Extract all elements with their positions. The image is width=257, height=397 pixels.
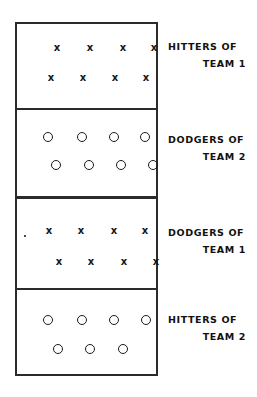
player-mark-o [43,132,53,142]
player-mark-x: x [76,225,87,236]
player-mark-x: x [78,72,89,83]
player-mark-x: x [46,72,57,83]
player-mark-o [118,344,128,354]
player-mark-o [140,132,150,142]
player-mark-o [148,160,158,170]
caption-line-2: TEAM 2 [168,148,252,165]
player-mark-o [109,132,119,142]
player-mark-x: x [85,42,96,53]
player-mark-o [77,315,87,325]
player-mark-x: x [140,225,151,236]
panel-dodgers-team-2 [15,110,158,196]
caption-hitters-team-2: HITTERS OF TEAM 2 [168,311,252,345]
player-mark-x: x [109,225,120,236]
player-mark-x: x [118,42,129,53]
player-mark-o [116,160,126,170]
caption-line-2: TEAM 1 [168,241,252,258]
panel-hitters-team-2 [15,290,158,376]
player-mark-o [53,344,63,354]
player-mark-x: x [149,42,160,53]
player-mark-x: x [110,72,121,83]
team-formation-diagram: x x x x x x x x x x x x x x x x [0,0,257,397]
player-mark-x: x [141,72,152,83]
caption-line-1: HITTERS OF [168,311,252,328]
player-mark-o [51,160,61,170]
caption-line-2: TEAM 2 [168,328,252,345]
player-mark-o [109,315,119,325]
caption-hitters-team-1: HITTERS OF TEAM 1 [168,38,252,72]
panel-hitters-team-1: x x x x x x x x [15,22,158,108]
caption-dodgers-team-2: DODGERS OF TEAM 2 [168,131,252,165]
caption-line-1: DODGERS OF [168,131,252,148]
caption-line-1: HITTERS OF [168,38,252,55]
player-mark-x: x [86,256,97,267]
caption-dodgers-team-1: DODGERS OF TEAM 1 [168,224,252,258]
player-mark-o [77,132,87,142]
panel-dodgers-team-1: x x x x x x x x [15,199,158,288]
player-mark-x: x [119,256,130,267]
player-mark-x: x [44,225,55,236]
player-mark-o [84,160,94,170]
caption-line-1: DODGERS OF [168,224,252,241]
player-mark-x: x [52,42,63,53]
player-mark-x: x [54,256,65,267]
player-mark-o [141,315,151,325]
player-mark-o [85,344,95,354]
player-mark-x: x [151,256,162,267]
player-mark-o [43,315,53,325]
caption-line-2: TEAM 1 [168,55,252,72]
